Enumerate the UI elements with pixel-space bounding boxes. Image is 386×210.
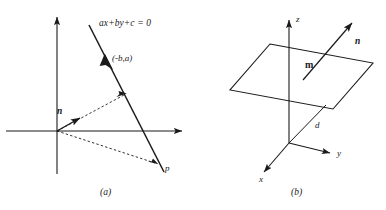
caption-b: (b) xyxy=(291,188,302,198)
line-equation-label: ax+by+c = 0 xyxy=(99,19,151,29)
distance-label: d xyxy=(315,121,320,130)
normal-vector-label-3d: n xyxy=(355,37,360,47)
plane-parallelogram xyxy=(230,44,373,109)
axis-z-label: z xyxy=(296,15,300,24)
dashed-line-to-p xyxy=(57,131,155,163)
axis-x-line-3d xyxy=(264,143,289,172)
axis-y-label: y xyxy=(337,149,341,158)
line-ax-by-c xyxy=(89,25,164,172)
point-p-label: p xyxy=(165,164,170,173)
panel-a-graphics xyxy=(6,17,182,174)
normal-vector-arrow-2d xyxy=(57,118,80,131)
figure-canvas xyxy=(0,0,386,210)
panel-b-graphics xyxy=(230,20,373,172)
direction-point-label: (-b,a) xyxy=(112,54,132,63)
normal-vector-label-2d: n xyxy=(57,107,62,117)
distance-line-d xyxy=(289,105,326,143)
plane-moment-label: m xyxy=(305,60,313,70)
axis-y-line-3d xyxy=(289,143,330,153)
figure-container: ax+by+c = 0 (-b,a) n p (a) z n m d y x (… xyxy=(0,0,386,210)
axis-x-label: x xyxy=(259,175,263,184)
caption-a: (a) xyxy=(100,188,111,198)
